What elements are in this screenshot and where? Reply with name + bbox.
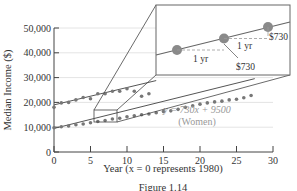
one-year-label-a: 1 yr bbox=[193, 54, 209, 64]
data-point bbox=[140, 94, 144, 98]
data-point bbox=[81, 96, 85, 100]
data-point bbox=[111, 117, 115, 121]
y-tick-label: 0 bbox=[46, 147, 51, 158]
data-point bbox=[125, 87, 129, 91]
data-point bbox=[133, 89, 137, 93]
data-point bbox=[60, 125, 64, 129]
data-point bbox=[111, 89, 115, 93]
y-tick-label: 30,000 bbox=[24, 72, 52, 83]
data-point bbox=[81, 122, 85, 126]
income-chart: 010,00020,00030,00040,00050,000 05101520… bbox=[0, 0, 297, 191]
data-point bbox=[242, 96, 246, 100]
data-point bbox=[74, 123, 78, 127]
y-tick-labels: 010,00020,00030,00040,00050,000 bbox=[24, 23, 52, 158]
data-point bbox=[52, 126, 56, 130]
data-point bbox=[227, 98, 231, 102]
data-point bbox=[147, 92, 151, 96]
one-year-label-b: 1 yr bbox=[237, 41, 253, 51]
data-point bbox=[249, 94, 253, 98]
value-label-a: $730 bbox=[236, 62, 255, 72]
inset: 1 yr 1 yr $730 $730 bbox=[156, 5, 290, 75]
data-point bbox=[125, 115, 129, 119]
data-point bbox=[118, 89, 122, 93]
data-point bbox=[60, 101, 64, 105]
y-axis-title: Median Income ($) bbox=[2, 49, 14, 131]
x-tick-label: 25 bbox=[232, 155, 242, 166]
data-point bbox=[96, 120, 100, 124]
equation-label: y = 730x + 9500 bbox=[162, 104, 230, 115]
y-tick-label: 10,000 bbox=[24, 122, 52, 133]
figure-caption: Figure 1.14 bbox=[139, 182, 188, 191]
equation-sublabel: (Women) bbox=[178, 116, 216, 128]
data-point bbox=[67, 101, 71, 105]
data-point bbox=[220, 99, 224, 103]
data-point bbox=[67, 124, 71, 128]
x-tick-label: 5 bbox=[88, 155, 93, 166]
y-tick-label: 20,000 bbox=[24, 97, 52, 108]
data-point bbox=[89, 121, 93, 125]
value-label-b: $730 bbox=[269, 32, 288, 42]
y-tick-label: 40,000 bbox=[24, 47, 52, 58]
data-point bbox=[96, 92, 100, 96]
data-point bbox=[74, 98, 78, 102]
x-tick-label: 30 bbox=[268, 155, 278, 166]
data-point bbox=[89, 97, 93, 101]
data-point bbox=[52, 106, 56, 110]
y-tick-label: 50,000 bbox=[24, 23, 52, 34]
x-axis-title: Year (x = 0 represents 1980) bbox=[103, 163, 223, 175]
data-point bbox=[118, 116, 122, 120]
series-men bbox=[52, 81, 156, 110]
x-tick-label: 0 bbox=[52, 155, 57, 166]
data-point bbox=[235, 97, 239, 101]
